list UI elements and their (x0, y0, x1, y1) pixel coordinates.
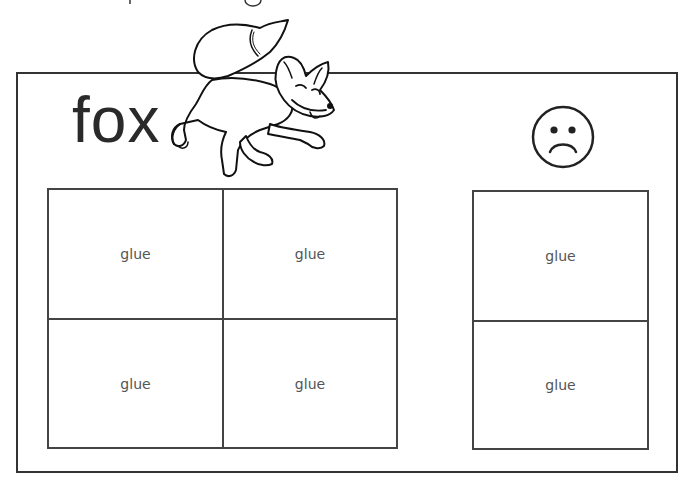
glue-cell[interactable]: glue (473, 191, 648, 321)
glue-cell[interactable]: glue (473, 321, 648, 449)
target-word: fox (72, 80, 160, 160)
sad-face-icon (530, 104, 596, 170)
glue-grid-left: glue glue glue glue (47, 188, 398, 449)
glue-label: glue (120, 246, 150, 262)
glue-cell[interactable]: glue (223, 189, 397, 319)
glue-label: glue (120, 376, 150, 392)
glue-label: glue (295, 246, 325, 262)
fox-illustration-icon (150, 0, 370, 190)
glue-grid-right: glue glue (472, 190, 649, 450)
glue-cell[interactable]: glue (48, 319, 223, 448)
glue-label: glue (545, 248, 575, 264)
glue-label: glue (295, 376, 325, 392)
glue-cell[interactable]: glue (48, 189, 223, 319)
glue-cell[interactable]: glue (223, 319, 397, 448)
glue-label: glue (545, 377, 575, 393)
